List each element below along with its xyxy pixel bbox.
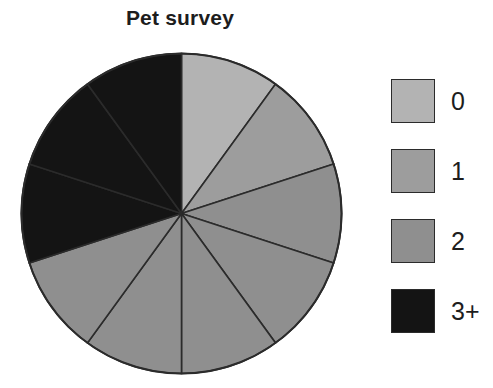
legend-label: 2 <box>451 229 465 254</box>
legend-swatch <box>391 219 435 263</box>
chart-legend: 0123+ <box>391 76 486 336</box>
legend-item: 1 <box>391 146 486 196</box>
legend-label: 1 <box>451 159 465 184</box>
legend-item: 0 <box>391 76 486 126</box>
legend-item: 3+ <box>391 286 486 336</box>
pie-chart <box>20 52 343 375</box>
legend-swatch <box>391 79 435 123</box>
page-title: Pet survey <box>0 6 360 30</box>
legend-label: 0 <box>451 89 465 114</box>
legend-label: 3+ <box>451 299 480 324</box>
legend-swatch <box>391 149 435 193</box>
legend-swatch <box>391 289 435 333</box>
legend-item: 2 <box>391 216 486 266</box>
pie-chart-svg <box>20 52 343 375</box>
pie-slice-group <box>21 54 341 374</box>
